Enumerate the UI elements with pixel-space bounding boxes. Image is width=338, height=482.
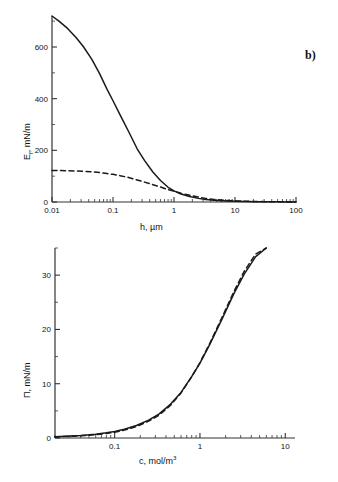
tick-label: 1: [198, 442, 203, 451]
tick-label: 600: [35, 43, 49, 52]
tick-label: 30: [42, 271, 51, 280]
series-solid: [55, 248, 266, 437]
tick-label: 10: [231, 206, 240, 215]
tick-label: 0: [44, 198, 49, 207]
tick-label: 0.1: [109, 442, 121, 451]
series-dashed: [55, 248, 266, 437]
tick-label: 20: [42, 325, 51, 334]
tick-label: 0: [47, 434, 52, 443]
tick-label: 400: [35, 95, 49, 104]
series-solid: [52, 16, 296, 202]
tick-label: 200: [35, 146, 49, 155]
tick-label: 0.1: [107, 206, 119, 215]
plot-area-b: 0.010.11101000200400600: [0, 0, 338, 240]
chart-panel-c: c) Π, mN/m c, mol/m3 0.11100102030: [0, 240, 338, 482]
tick-label: 10: [281, 442, 290, 451]
chart-panel-b: b) Ef, mN/m h, µm 0.010.1110100020040060…: [0, 0, 338, 240]
figure-root: b) Ef, mN/m h, µm 0.010.1110100020040060…: [0, 0, 338, 482]
plot-area-c: 0.11100102030: [0, 240, 338, 482]
tick-label: 10: [42, 380, 51, 389]
tick-label: 1: [172, 206, 177, 215]
tick-label: 100: [289, 206, 303, 215]
tick-label: 0.01: [44, 206, 60, 215]
